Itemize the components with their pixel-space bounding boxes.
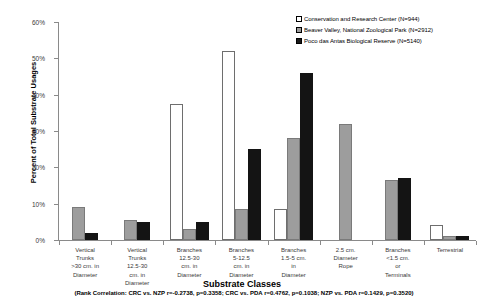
x-tick-mark bbox=[163, 241, 164, 245]
bar-pda bbox=[248, 149, 261, 240]
x-axis-title: Substrate Classes bbox=[0, 279, 484, 289]
bar-nzp bbox=[235, 209, 248, 240]
y-tick-label: 30% bbox=[15, 128, 45, 135]
plot-area: 0%10%20%30%40%50%60% bbox=[58, 22, 476, 240]
bar-pda bbox=[300, 73, 313, 240]
bar-group-bars bbox=[372, 22, 424, 240]
bar-group-bars bbox=[424, 22, 476, 240]
x-tick-mark bbox=[268, 241, 269, 245]
bar-group bbox=[59, 22, 111, 240]
x-tick-mark bbox=[476, 241, 477, 245]
bar-group-bars bbox=[59, 22, 111, 240]
bar-crc bbox=[430, 225, 443, 240]
bar-pda bbox=[398, 178, 411, 240]
bar-nzp bbox=[124, 220, 137, 240]
bar-group bbox=[268, 22, 320, 240]
x-tick-mark bbox=[215, 241, 216, 245]
x-tick-mark bbox=[320, 241, 321, 245]
y-tick-label: 40% bbox=[15, 91, 45, 98]
x-tick-mark bbox=[372, 241, 373, 245]
bar-pda bbox=[196, 222, 209, 240]
bar-nzp bbox=[72, 207, 85, 240]
bar-nzp bbox=[443, 236, 456, 240]
bar-nzp bbox=[339, 124, 352, 240]
bar-crc bbox=[170, 104, 183, 240]
y-tick-label: 0% bbox=[15, 237, 45, 244]
bar-crc bbox=[274, 209, 287, 240]
bar-group bbox=[424, 22, 476, 240]
x-tick-mark bbox=[111, 241, 112, 245]
bar-pda bbox=[137, 222, 150, 240]
x-tick-mark bbox=[59, 241, 60, 245]
bar-crc bbox=[222, 51, 235, 240]
bar-pda bbox=[456, 236, 469, 240]
y-tick-label: 50% bbox=[15, 55, 45, 62]
bar-group bbox=[163, 22, 215, 240]
bar-pda bbox=[85, 233, 98, 240]
y-tick-label: 60% bbox=[15, 19, 45, 26]
x-tick-mark bbox=[424, 241, 425, 245]
y-tick-label: 10% bbox=[15, 200, 45, 207]
chart-annotation: (Rank Correlation: CRC vs. NZP r=-0.2738… bbox=[44, 290, 444, 298]
substrate-usage-bar-chart: Conservation and Research Center (N=944)… bbox=[0, 0, 484, 307]
bar-group-bars bbox=[320, 22, 372, 240]
y-tick-label: 20% bbox=[15, 164, 45, 171]
bar-nzp bbox=[183, 229, 196, 240]
bar-group bbox=[320, 22, 372, 240]
bar-nzp bbox=[287, 138, 300, 240]
bar-group-bars bbox=[215, 22, 267, 240]
bar-group bbox=[215, 22, 267, 240]
bar-group-bars bbox=[268, 22, 320, 240]
bar-group bbox=[111, 22, 163, 240]
bar-group bbox=[372, 22, 424, 240]
bar-group-bars bbox=[111, 22, 163, 240]
bar-nzp bbox=[385, 180, 398, 240]
bar-group-bars bbox=[163, 22, 215, 240]
bar-groups bbox=[59, 22, 476, 240]
